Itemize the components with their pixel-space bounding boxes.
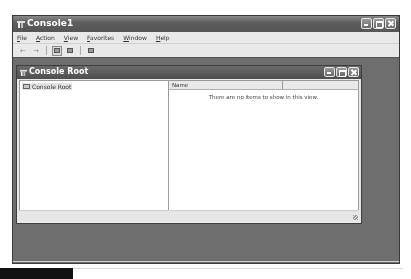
folder-icon (23, 84, 30, 89)
list-header: Name (169, 81, 358, 90)
show-hide-console-tree-button[interactable] (52, 46, 62, 56)
maximize-button[interactable] (373, 18, 384, 29)
console-root-window: Console Root Console Root Name (16, 65, 362, 224)
tree-item-console-root[interactable]: Console Root (22, 83, 72, 90)
menu-file[interactable]: File (17, 34, 27, 41)
back-button[interactable]: ← (18, 46, 28, 56)
child-title-bar[interactable]: Console Root (17, 66, 361, 79)
minimize-button[interactable] (361, 18, 372, 29)
toolbar-separator (80, 46, 81, 55)
column-header-name[interactable]: Name (169, 81, 283, 89)
menu-window[interactable]: Window (123, 34, 147, 41)
console-tree[interactable]: Console Root (20, 81, 169, 210)
toolbar-separator (46, 46, 47, 55)
window-title: Console1 (27, 18, 73, 28)
child-minimize-button[interactable] (324, 67, 335, 77)
back-arrow-icon: ← (20, 47, 26, 55)
window-bottom-edge (13, 261, 399, 262)
forward-arrow-icon: → (33, 47, 39, 55)
menu-view[interactable]: View (64, 34, 78, 41)
child-maximize-button[interactable] (336, 67, 347, 77)
forward-button[interactable]: → (31, 46, 41, 56)
help-icon (88, 48, 94, 53)
export-list-icon (67, 48, 73, 53)
menu-help[interactable]: Help (156, 34, 170, 41)
tree-item-label: Console Root (32, 83, 71, 90)
child-close-button[interactable] (348, 67, 359, 77)
menu-favorites[interactable]: Favorites (87, 34, 114, 41)
split-panes: Console Root Name There are no items to … (19, 80, 359, 211)
mdi-client-area: Console Root Console Root Name (13, 57, 399, 263)
bottom-black-bar (0, 268, 73, 279)
close-button[interactable] (385, 18, 396, 29)
menu-bar: File Action View Favorites Window Help (13, 32, 399, 43)
menu-action[interactable]: Action (36, 34, 55, 41)
mmc-console-icon (17, 20, 25, 28)
result-list[interactable]: Name There are no items to show in this … (169, 81, 358, 210)
export-list-button[interactable] (65, 46, 75, 56)
status-bar (19, 210, 359, 221)
child-caption-buttons (324, 67, 359, 77)
child-window-title: Console Root (29, 67, 88, 76)
resize-grip-icon[interactable] (353, 215, 358, 220)
help-button[interactable] (86, 46, 96, 56)
caption-buttons (361, 18, 396, 29)
console-tree-icon (54, 48, 60, 53)
toolbar: ← → (13, 43, 399, 58)
empty-list-message: There are no items to show in this view. (169, 94, 358, 100)
bottom-divider (73, 268, 403, 269)
console-window: Console1 File Action View Favorites Wind… (12, 15, 400, 264)
title-bar[interactable]: Console1 (13, 16, 399, 32)
mmc-console-icon (20, 69, 27, 76)
